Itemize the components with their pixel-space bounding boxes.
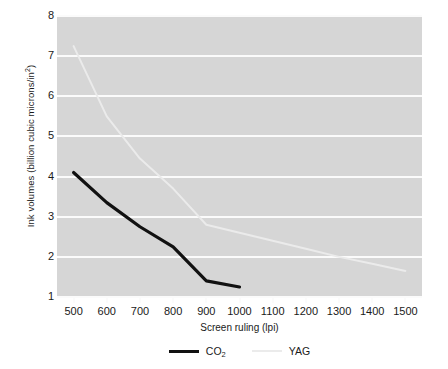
line-chart: Ink volumes (billion cubic microns/in2) …	[0, 0, 448, 369]
legend-swatch-yag	[252, 350, 282, 352]
x-tick-mark	[73, 297, 75, 303]
x-tick-mark	[338, 297, 340, 303]
chart-legend: CO2YAG	[57, 342, 422, 360]
plot-area	[57, 16, 422, 297]
y-tick-label: 1	[34, 291, 54, 302]
x-tick-mark	[172, 297, 174, 303]
legend-swatch-co2	[169, 350, 199, 353]
x-tick-mark	[239, 297, 241, 303]
series-line-yag	[74, 46, 406, 271]
legend-item-yag[interactable]: YAG	[252, 345, 310, 357]
x-tick-mark	[404, 297, 406, 303]
y-tick-label: 5	[34, 130, 54, 141]
legend-item-co2[interactable]: CO2	[169, 345, 226, 357]
x-tick-mark	[139, 297, 141, 303]
y-tick-label: 6	[34, 90, 54, 101]
y-tick-label: 4	[34, 171, 54, 182]
x-axis-title: Screen ruling (lpi)	[57, 322, 422, 333]
x-axis-ticks: 500600700800900100011001200130014001500	[0, 305, 448, 319]
x-tick-label: 1500	[385, 305, 425, 317]
x-tick-mark	[371, 297, 373, 303]
legend-label-subscript: 2	[222, 350, 226, 359]
x-tick-mark	[106, 297, 108, 303]
series-line-co2	[74, 173, 240, 287]
x-tick-mark	[205, 297, 207, 303]
y-tick-label: 3	[34, 211, 54, 222]
series-lines	[57, 16, 422, 297]
y-tick-label: 8	[34, 10, 54, 21]
x-tick-mark	[305, 297, 307, 303]
x-tick-mark	[272, 297, 274, 303]
y-tick-label: 2	[34, 251, 54, 262]
legend-label-co2: CO2	[206, 345, 226, 357]
legend-label-yag: YAG	[289, 345, 310, 357]
y-axis-title-superscript: 2	[24, 68, 31, 72]
y-tick-label: 7	[34, 50, 54, 61]
